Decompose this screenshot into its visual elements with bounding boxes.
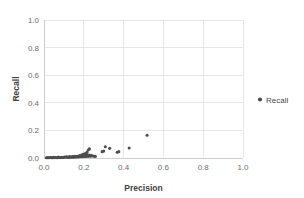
data-point (78, 154, 81, 157)
y-tick-label: 0.6 (28, 71, 40, 80)
y-tick-label: 0.0 (28, 154, 40, 163)
chart-canvas: 0.00.20.40.60.81.0 0.00.20.40.60.81.0 Pr… (0, 0, 304, 198)
scatter-chart: 0.00.20.40.60.81.0 0.00.20.40.60.81.0 Pr… (0, 0, 304, 198)
x-tick-label: 0.2 (78, 163, 90, 172)
data-point (88, 147, 91, 150)
data-point (108, 147, 111, 150)
x-tick-label: 0.6 (158, 163, 170, 172)
data-point (128, 147, 131, 150)
y-tick-label: 0.4 (28, 99, 40, 108)
x-axis-title: Precision (124, 183, 162, 193)
y-tick-label: 1.0 (28, 16, 40, 25)
y-tick-label: 0.2 (28, 126, 40, 135)
legend-label-recall: Recall (266, 96, 288, 105)
x-tick-label: 0.8 (198, 163, 210, 172)
y-tick-label: 0.8 (28, 44, 40, 53)
legend-marker-recall (258, 97, 262, 101)
data-point (102, 150, 105, 153)
data-point (146, 134, 149, 137)
data-point (104, 145, 107, 148)
x-tick-label: 0.0 (38, 163, 50, 172)
data-point (94, 155, 97, 158)
data-point (117, 150, 120, 153)
x-tick-label: 1.0 (237, 163, 249, 172)
x-tick-label: 0.4 (118, 163, 130, 172)
y-axis-title: Recall (11, 76, 21, 101)
